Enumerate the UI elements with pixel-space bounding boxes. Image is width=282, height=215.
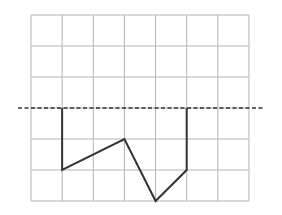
grid-diagram xyxy=(0,0,282,215)
